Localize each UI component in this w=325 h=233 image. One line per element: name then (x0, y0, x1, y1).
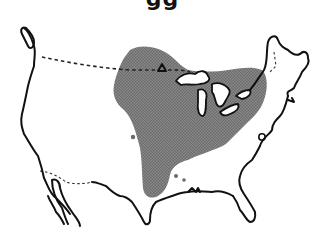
range-map (0, 0, 325, 233)
cape-cod (288, 98, 294, 102)
west-coast (21, 28, 70, 214)
range-area (113, 46, 266, 197)
mexico-border (40, 171, 92, 184)
baja-california (52, 179, 80, 226)
puget-sound (21, 27, 34, 48)
maine-border (270, 52, 276, 72)
